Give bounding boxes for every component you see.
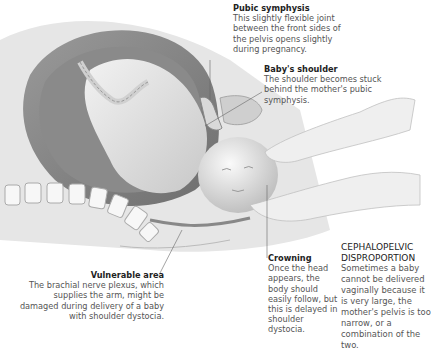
annotation-title: Vulnerable area (14, 270, 164, 280)
annotation-crowning: Crowning Once the head appears, the body… (268, 253, 338, 335)
sidebar-body: Sometimes a baby cannot be delivered vag… (341, 263, 431, 351)
sidebar-cephalopelvic-disproportion: CEPHALOPELVIC DISPROPORTION Sometimes a … (341, 242, 431, 351)
sidebar-title: CEPHALOPELVIC DISPROPORTION (341, 242, 431, 263)
annotation-title: Pubic symphysis (233, 3, 353, 13)
annotation-body: This slightly flexible joint between the… (233, 13, 353, 54)
annotation-babys-shoulder: Baby's shoulder The shoulder becomes stu… (264, 64, 384, 105)
annotation-body: The brachial nerve plexus, which supplie… (14, 280, 164, 321)
annotation-vulnerable-area: Vulnerable area The brachial nerve plexu… (14, 270, 164, 321)
annotation-title: Crowning (268, 253, 338, 263)
annotation-title: Baby's shoulder (264, 64, 384, 74)
annotation-body: Once the head appears, the body should e… (268, 263, 338, 334)
annotation-pubic-symphysis: Pubic symphysis This slightly flexible j… (233, 3, 353, 54)
annotation-body: The shoulder becomes stuck behind the mo… (264, 74, 384, 105)
